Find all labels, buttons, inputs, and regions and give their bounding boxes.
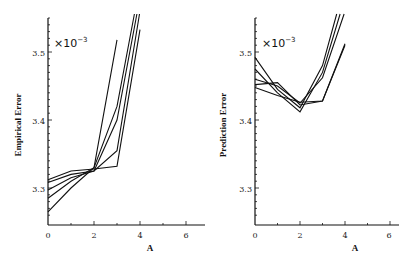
y-tick-label: 3.4 (239, 117, 252, 126)
series-line (255, 14, 337, 108)
y-tick-label: 3.3 (239, 185, 252, 194)
x-tick-label: 2 (297, 231, 302, 240)
y-multiplier: ×10−3 (54, 36, 88, 50)
series-line (255, 44, 345, 105)
series-line (255, 14, 344, 103)
y-tick-label: 3.5 (32, 49, 45, 58)
x-tick-label: 4 (342, 231, 347, 240)
x-axis-label: A (352, 243, 359, 253)
series-line (48, 30, 140, 180)
prediction-error-plot: 3.5 3.4 3.3 0 2 4 6 A Prediction Error ×… (205, 0, 409, 261)
x-tick-label: 6 (183, 231, 188, 240)
y-tick-label: 3.4 (32, 117, 45, 126)
x-tick-label: 0 (252, 231, 257, 240)
x-tick-label: 2 (91, 231, 96, 240)
y-axis-label: Empirical Error (13, 93, 23, 156)
empirical-error-chart: 3.5 3.4 3.3 0 2 4 6 A Empirical Error ×1… (0, 0, 205, 261)
y-multiplier: ×10−3 (262, 36, 296, 50)
series-line (48, 40, 117, 212)
prediction-error-chart: 3.5 3.4 3.3 0 2 4 6 A Prediction Error ×… (205, 0, 409, 261)
series-line (255, 45, 345, 102)
x-tick-label: 0 (45, 231, 50, 240)
y-tick-label: 3.5 (239, 49, 252, 58)
y-axis-label: Prediction Error (218, 93, 228, 157)
x-axis-label: A (147, 243, 154, 253)
x-tick-label: 4 (137, 231, 142, 240)
x-tick-label: 6 (386, 231, 391, 240)
data-lines (255, 14, 345, 112)
y-tick-label: 3.3 (32, 185, 45, 194)
empirical-error-plot: 3.5 3.4 3.3 0 2 4 6 A Empirical Error ×1… (0, 0, 205, 261)
